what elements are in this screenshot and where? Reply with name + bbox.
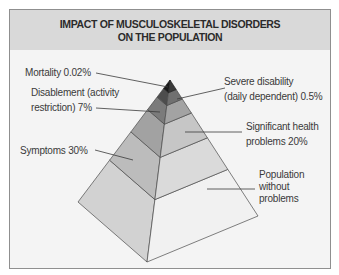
label-severe-line-2: (daily dependent) 0.5% xyxy=(224,91,322,103)
leader-mortality xyxy=(96,73,168,87)
label-population-line-1: Population xyxy=(259,169,304,181)
label-severe-line-1: Severe disability xyxy=(224,76,293,88)
label-population-line-2: without xyxy=(259,181,289,193)
label-significant-line-2: problems 20% xyxy=(246,136,308,148)
label-significant-line-1: Significant health xyxy=(246,121,319,133)
label-symptoms: Symptoms 30% xyxy=(20,145,88,157)
label-population-line-3: problems xyxy=(259,193,299,205)
label-mortality: Mortality 0.02% xyxy=(25,67,91,79)
label-disablement-line-2: restriction) 7% xyxy=(31,102,92,114)
label-disablement-line-1: Disablement (activity xyxy=(31,87,119,99)
leader-severe xyxy=(177,88,225,99)
